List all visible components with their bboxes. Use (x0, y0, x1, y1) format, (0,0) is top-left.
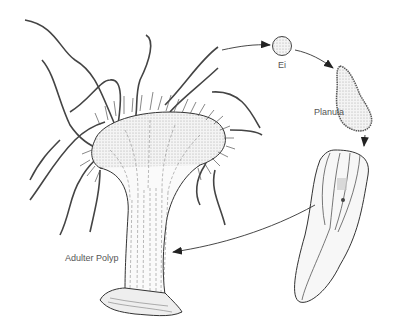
arrow-egg-to-planula (295, 50, 333, 68)
arrow-young-polyp-to-adult (173, 205, 315, 252)
egg-illustration (273, 37, 292, 56)
arrow-planula-to-young-polyp (364, 135, 365, 146)
planula-label: Planula (314, 107, 344, 117)
planula-illustration (337, 66, 372, 131)
egg-label: Ei (278, 60, 286, 70)
arrow-polyp-to-egg (222, 45, 270, 50)
adult-polyp-label: Adulter Polyp (65, 253, 119, 263)
adult-polyp-illustration (25, 20, 262, 316)
young-polyp-illustration (295, 150, 369, 302)
diagram-canvas (0, 0, 394, 333)
life-cycle-diagram: Ei Planula Adulter Polyp (0, 0, 394, 333)
